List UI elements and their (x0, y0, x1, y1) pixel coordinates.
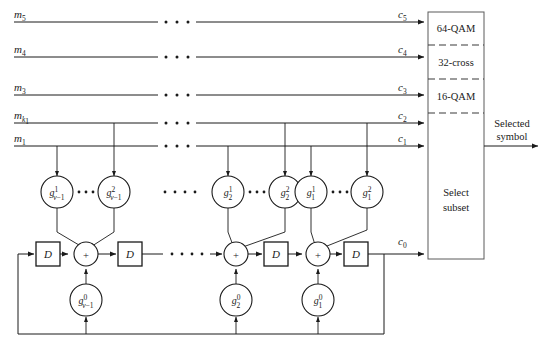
input-label-m5: m5 (14, 8, 26, 23)
output-label-c3: c3 (398, 81, 407, 96)
output-label-c4: c4 (398, 43, 407, 58)
feedback-tap-to-adder-wires (86, 269, 318, 284)
tap-node-g-1-sup2[interactable]: g21 (351, 176, 383, 208)
output-label-c2: c2 (398, 109, 407, 124)
input-label-m3: m3 (14, 81, 26, 96)
input-label-m1: m1 (14, 132, 26, 147)
ellipsis-dots-stage-1 (332, 191, 349, 194)
ellipsis-dots-between-stages (164, 191, 197, 194)
tap-drop-lines (57, 123, 367, 176)
tap-node-g-nu-1-sup2[interactable]: g2ν−1 (98, 176, 130, 208)
select-subset-label-line1: Select (443, 187, 469, 198)
ellipsis-dots-delayline (171, 253, 204, 256)
tcm-encoder-figure: m5 m4 m3 mk1 m1 c5 c4 c3 c2 c1 c0 64-QAM… (0, 0, 546, 343)
output-label-c1: c1 (398, 132, 407, 147)
select-subset-box[interactable] (428, 12, 484, 259)
tap-node-g-2-sup1[interactable]: g12 (212, 176, 244, 208)
partition-label-64qam: 64-QAM (437, 23, 476, 34)
selected-symbol-label-line1: Selected (494, 118, 530, 129)
delay-box-3[interactable]: D (264, 242, 288, 266)
adder-node-stage-1[interactable]: + (306, 242, 330, 266)
tap-node-g-nu-1-sup1[interactable]: g1ν−1 (41, 176, 73, 208)
ellipsis-dots-inputs (165, 21, 190, 148)
ellipsis-dots-stage-nu-1 (78, 191, 95, 194)
select-subset-label-line2: subset (443, 202, 469, 213)
delay-box-2[interactable]: D (118, 242, 142, 266)
partition-label-32cross: 32-cross (438, 57, 474, 68)
feedback-tap-node-g-nu-1-sup0[interactable]: g0ν−1 (70, 284, 102, 316)
svg-text:D: D (351, 248, 360, 260)
partition-label-16qam: 16-QAM (437, 91, 476, 102)
svg-text:+: + (83, 250, 89, 261)
svg-text:D: D (125, 248, 134, 260)
adder-node-stage-2[interactable]: + (224, 242, 248, 266)
adder-node-stage-nu-1[interactable]: + (74, 242, 98, 266)
feedback-tap-node-g-2-sup0[interactable]: g02 (220, 284, 252, 316)
output-label-c0: c0 (398, 235, 407, 250)
svg-text:D: D (271, 248, 280, 260)
tap-node-g-1-sup1[interactable]: g11 (295, 176, 327, 208)
feedback-tap-node-g-1-sup0[interactable]: g01 (302, 284, 334, 316)
svg-text:+: + (233, 250, 239, 261)
output-label-c5: c5 (398, 8, 407, 23)
delay-box-4[interactable]: D (344, 242, 368, 266)
ellipsis-dots-stage-2 (249, 191, 266, 194)
selected-symbol-label-line2: symbol (497, 131, 528, 142)
svg-text:+: + (315, 250, 321, 261)
delay-box-1[interactable]: D (36, 242, 60, 266)
input-label-m4: m4 (14, 43, 26, 58)
svg-text:D: D (43, 248, 52, 260)
